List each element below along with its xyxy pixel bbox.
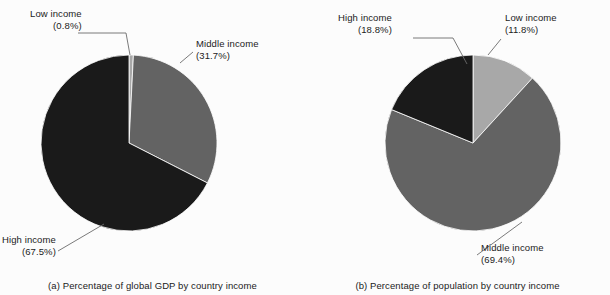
pie-chart-figure: Low income (0.8%) Middle income (31.7%) …: [0, 0, 610, 295]
panel-global-gdp: Low income (0.8%) Middle income (31.7%) …: [0, 0, 305, 295]
caption-panel-b: (b) Percentage of population by country …: [305, 280, 610, 291]
leader-line-high-income-a: [58, 224, 104, 251]
slice-label-name: High income: [338, 12, 392, 23]
leader-line-low-income-a: [78, 33, 130, 55]
panel-population: High income (18.8%) Low income (11.8%) M…: [305, 0, 610, 295]
slice-label-low-income-b: Low income (11.8%): [505, 12, 557, 36]
slice-label-pct: (11.8%): [505, 24, 557, 36]
slice-label-pct: (69.4%): [481, 254, 544, 266]
leader-line-middle-income-a: [180, 52, 193, 63]
slice-label-low-income-a: Low income (0.8%): [30, 8, 82, 32]
slice-label-pct: (18.8%): [338, 24, 392, 36]
caption-panel-a: (a) Percentage of global GDP by country …: [0, 280, 305, 291]
slice-label-name: High income: [2, 234, 56, 245]
slice-label-name: Low income: [30, 8, 82, 19]
slice-label-middle-income-a: Middle income (31.7%): [196, 38, 259, 62]
slice-label-pct: (67.5%): [2, 246, 56, 258]
slice-label-name: Low income: [505, 12, 557, 23]
slice-label-high-income-b: High income (18.8%): [338, 12, 392, 36]
pie-chart-b: [305, 0, 610, 275]
slice-label-high-income-a: High income (67.5%): [2, 234, 56, 258]
slice-label-middle-income-b: Middle income (69.4%): [481, 242, 544, 266]
slice-label-name: Middle income: [481, 242, 544, 253]
leader-line-low-income-b: [488, 39, 501, 55]
slice-label-pct: (0.8%): [30, 20, 82, 32]
slice-label-pct: (31.7%): [196, 50, 259, 62]
slice-label-name: Middle income: [196, 38, 259, 49]
